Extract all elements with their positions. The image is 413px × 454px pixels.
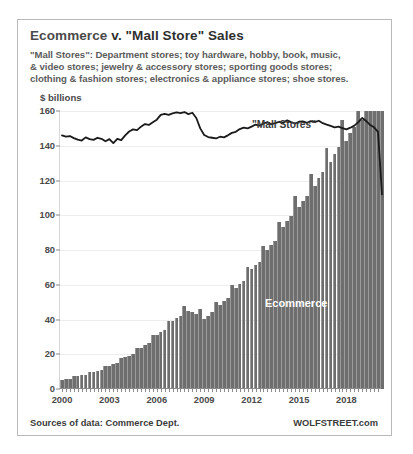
x-tick-mark	[327, 389, 328, 392]
x-tick-label: 2018	[336, 395, 357, 405]
x-tick-mark	[366, 389, 367, 392]
x-tick-mark	[236, 389, 237, 392]
x-tick-mark	[362, 389, 363, 392]
x-tick-label: 2015	[289, 395, 310, 405]
x-tick-mark	[145, 389, 146, 392]
x-tick-mark	[342, 389, 343, 392]
x-tick-mark	[374, 389, 375, 392]
title-rest: v. "Mall Store" Sales	[107, 28, 243, 43]
x-tick-mark	[157, 389, 158, 392]
x-tick-mark	[346, 389, 347, 392]
mall-stores-line	[62, 112, 382, 194]
x-tick-mark	[180, 389, 181, 392]
x-tick-mark	[378, 389, 379, 392]
x-tick-mark	[66, 389, 67, 392]
x-tick-mark	[252, 389, 253, 392]
x-tick-mark	[315, 389, 316, 392]
x-tick-mark	[117, 389, 118, 392]
x-tick-mark	[161, 389, 162, 392]
x-tick-mark	[173, 389, 174, 392]
y-tick-label: 60	[45, 280, 55, 290]
plot-area: 020406080100120140160 200020032006200920…	[60, 111, 380, 389]
x-tick-mark	[260, 389, 261, 392]
x-tick-mark	[82, 389, 83, 392]
x-tick-mark	[295, 389, 296, 392]
x-tick-mark	[105, 389, 106, 392]
x-tick-mark	[319, 389, 320, 392]
y-tick-label: 20	[45, 349, 55, 359]
x-tick-mark	[358, 389, 359, 392]
x-tick-mark	[370, 389, 371, 392]
x-tick-mark	[220, 389, 221, 392]
x-tick-mark	[74, 389, 75, 392]
x-tick-mark	[90, 389, 91, 392]
x-tick-mark	[248, 389, 249, 392]
x-tick-mark	[169, 389, 170, 392]
title-prefix: Ecommerce	[30, 28, 107, 43]
x-tick-mark	[240, 389, 241, 392]
series-label-mall-stores: "Mall Stores"	[252, 119, 316, 130]
page-title: Ecommerce v. "Mall Store" Sales	[30, 28, 244, 43]
subtitle-line-3: clothing & fashion stores; electronics &…	[30, 73, 382, 85]
x-tick-mark	[271, 389, 272, 392]
x-tick-mark	[94, 389, 95, 392]
x-tick-mark	[263, 389, 264, 392]
x-tick-mark	[287, 389, 288, 392]
x-tick-mark	[188, 389, 189, 392]
x-tick-mark	[307, 389, 308, 392]
x-tick-mark	[311, 389, 312, 392]
chart-card: Ecommerce v. "Mall Store" Sales "Mall St…	[17, 19, 392, 436]
y-tick-label: 40	[45, 315, 55, 325]
x-tick-mark	[224, 389, 225, 392]
x-tick-mark	[212, 389, 213, 392]
x-tick-mark	[267, 389, 268, 392]
x-tick-mark	[331, 389, 332, 392]
x-tick-mark	[350, 389, 351, 392]
x-tick-mark	[153, 389, 154, 392]
x-tick-mark	[279, 389, 280, 392]
x-tick-mark	[291, 389, 292, 392]
series-label-ecommerce: Ecommerce	[265, 297, 327, 309]
x-tick-mark	[109, 389, 110, 392]
x-tick-mark	[149, 389, 150, 392]
x-tick-label: 2000	[52, 395, 73, 405]
x-tick-mark	[177, 389, 178, 392]
x-tick-mark	[133, 389, 134, 392]
x-tick-mark	[232, 389, 233, 392]
site-credit: WOLFSTREET.com	[293, 418, 378, 428]
x-tick-mark	[204, 389, 205, 392]
x-tick-mark	[196, 389, 197, 392]
x-tick-mark	[323, 389, 324, 392]
x-tick-mark	[354, 389, 355, 392]
y-tick-label: 160	[39, 106, 55, 116]
x-tick-mark	[303, 389, 304, 392]
subtitle-line-1: "Mall Stores": Department stores; toy ha…	[30, 49, 382, 61]
x-tick-mark	[335, 389, 336, 392]
x-tick-mark	[283, 389, 284, 392]
x-tick-mark	[299, 389, 300, 392]
x-tick-mark	[200, 389, 201, 392]
line-series-mall-stores	[60, 111, 380, 389]
x-tick-label: 2006	[146, 395, 167, 405]
x-tick-mark	[275, 389, 276, 392]
x-tick-mark	[113, 389, 114, 392]
x-tick-mark	[216, 389, 217, 392]
y-tick-label: 0	[50, 384, 55, 394]
x-tick-mark	[339, 389, 340, 392]
y-tick-label: 120	[39, 176, 55, 186]
x-tick-mark	[208, 389, 209, 392]
x-tick-mark	[78, 389, 79, 392]
x-tick-label: 2003	[99, 395, 120, 405]
x-tick-mark	[228, 389, 229, 392]
x-tick-mark	[184, 389, 185, 392]
x-tick-mark	[256, 389, 257, 392]
bar	[380, 111, 384, 389]
x-tick-mark	[70, 389, 71, 392]
x-tick-mark	[125, 389, 126, 392]
x-tick-mark	[165, 389, 166, 392]
x-tick-mark	[98, 389, 99, 392]
y-tick-label: 80	[45, 245, 55, 255]
x-tick-mark	[192, 389, 193, 392]
x-tick-mark	[244, 389, 245, 392]
x-tick-mark	[101, 389, 102, 392]
